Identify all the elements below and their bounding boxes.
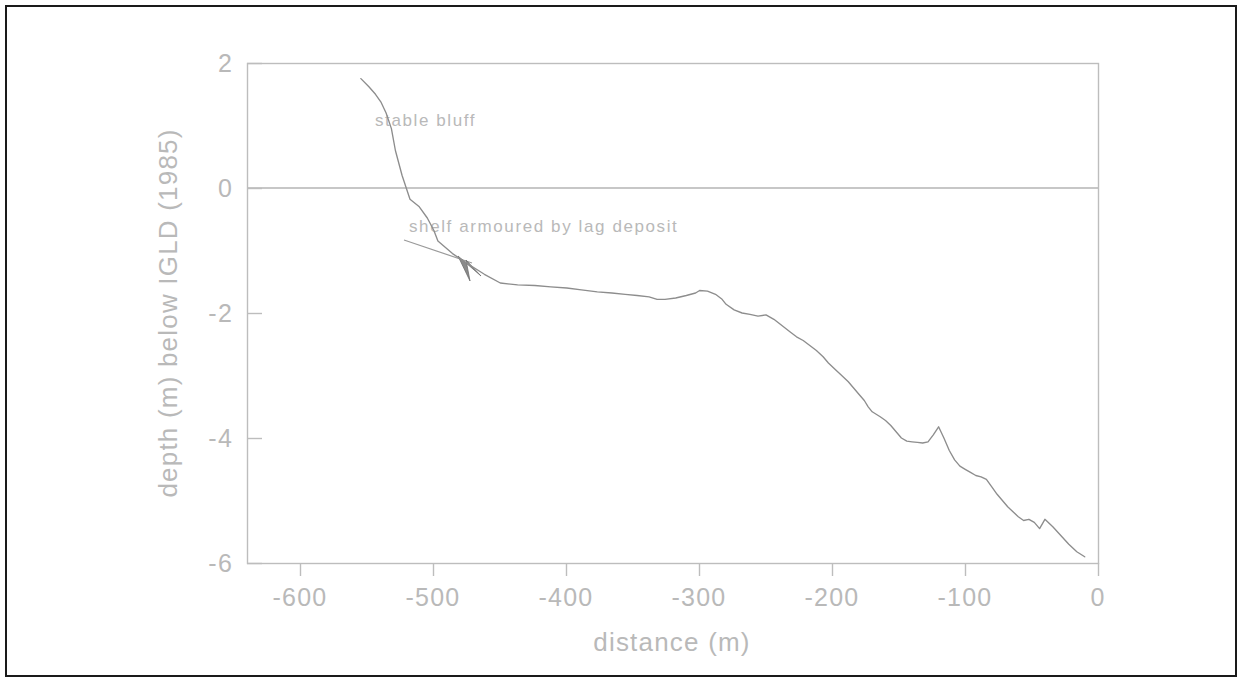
y-tick-label: 0	[218, 174, 233, 202]
y-tick-label: 2	[218, 49, 233, 77]
x-tick-label: -200	[805, 583, 860, 611]
x-axis-title: distance (m)	[593, 627, 750, 657]
x-tick-label: -100	[938, 583, 993, 611]
stable-bluff-annotation: stable bluff	[375, 111, 476, 130]
nearshore-profile-line	[361, 79, 1085, 557]
x-tick-labels: -600 -500 -400 -300 -200 -100 0	[273, 583, 1106, 611]
y-tick-label: -6	[208, 549, 233, 577]
x-tick-label: -600	[273, 583, 328, 611]
x-tick-label: -400	[539, 583, 594, 611]
shelf-armour-annotation: shelf armoured by lag deposit	[409, 217, 678, 236]
x-tick-label: -500	[406, 583, 461, 611]
x-tick-label: 0	[1090, 583, 1105, 611]
y-tick-labels: 2 0 -2 -4 -6	[208, 49, 233, 577]
y-tick-label: -4	[208, 424, 233, 452]
x-axis-ticks	[301, 563, 1099, 576]
plot-frame	[248, 64, 1099, 564]
y-axis-title: depth (m) below IGLD (1985)	[153, 128, 183, 497]
profile-chart: -600 -500 -400 -300 -200 -100 0 2 0 -2 -…	[0, 0, 1259, 699]
figure-root: -600 -500 -400 -300 -200 -100 0 2 0 -2 -…	[0, 0, 1259, 699]
y-axis-ticks	[247, 64, 262, 564]
x-tick-label: -300	[672, 583, 727, 611]
y-tick-label: -2	[208, 299, 233, 327]
